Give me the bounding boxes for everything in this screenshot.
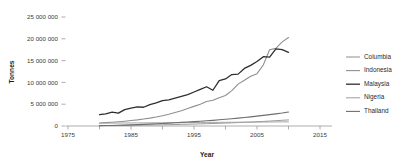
legend-label-columbia: Columbia [364,53,391,60]
y-tick-label: 20 000 000 [27,35,59,42]
y-tick-label: 25 000 000 [27,13,59,20]
y-tick-label: 10 000 000 [27,79,59,86]
legend-label-indonesia: Indonesia [364,66,392,73]
x-axis-ticks [68,126,320,130]
x-tick-label: 2005 [250,131,264,138]
x-axis-group: 19751985199520052015 Year [61,126,332,158]
x-tick-label: 1975 [61,131,75,138]
x-axis-tick-labels: 19751985199520052015 [61,131,327,138]
x-tick-label: 2015 [313,131,327,138]
x-axis-title: Year [200,151,214,158]
chart-legend: ColumbiaIndonesiaMalaysiaNigeriaThailand [346,53,392,114]
legend-label-nigeria: Nigeria [364,93,385,101]
legend-label-thailand: Thailand [364,107,389,114]
y-axis-title: Tonnes [8,60,15,83]
y-tick-label: 15 000 000 [27,57,59,64]
y-tick-label: 0 [55,122,59,129]
series-line-indonesia [100,37,289,122]
line-chart: 05 000 00010 000 00015 000 00020 000 000… [0,0,415,167]
legend-label-malaysia: Malaysia [364,80,390,88]
y-axis-group: 05 000 00010 000 00015 000 00020 000 000… [8,13,66,129]
y-axis-ticks [62,17,66,126]
y-tick-label: 5 000 000 [30,100,58,107]
y-axis-tick-labels: 05 000 00010 000 00015 000 00020 000 000… [27,13,59,129]
data-series-group [100,37,289,125]
series-line-malaysia [100,49,289,115]
x-tick-label: 1985 [124,131,138,138]
chart-canvas: 05 000 00010 000 00015 000 00020 000 000… [0,0,415,167]
x-tick-label: 1995 [187,131,201,138]
